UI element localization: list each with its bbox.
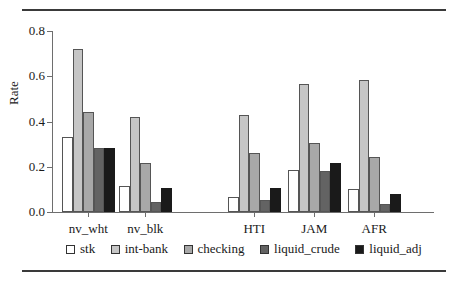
legend-label: liquid_adj — [369, 241, 422, 257]
legend-label: stk — [80, 241, 95, 257]
bar-AFR-liquid_crude — [380, 204, 391, 212]
bar-nv_blk-liquid_crude — [151, 202, 162, 212]
legend-swatch-icon-stk — [66, 245, 75, 254]
legend-item-stk[interactable]: stk — [66, 241, 95, 257]
bar-nv_wht-liquid_crude — [94, 148, 105, 212]
bar-nv_blk-checking — [140, 163, 151, 212]
y-tick-label: 0.6 — [29, 67, 45, 84]
figure: Rate 0.00.20.40.60.8 nv_whtnv_blkHTIJAMA… — [0, 0, 468, 281]
legend-item-int-bank[interactable]: int-bank — [111, 241, 168, 257]
bar-nv_blk-liquid_adj — [161, 188, 172, 212]
chart-legend: stkint-bankcheckingliquid_crudeliquid_ad… — [52, 240, 434, 258]
bar-nv_wht-stk — [62, 137, 73, 212]
x-tick-mark — [314, 212, 315, 217]
y-tick-mark — [47, 167, 52, 168]
bar-AFR-int-bank — [359, 80, 370, 212]
bar-JAM-int-bank — [299, 84, 310, 212]
bar-nv_blk-int-bank — [130, 117, 141, 212]
x-axis-line — [52, 212, 434, 213]
y-tick-label: 0.8 — [29, 22, 45, 39]
bar-JAM-liquid_crude — [320, 171, 331, 212]
y-tick-mark — [47, 31, 52, 32]
y-tick-label: 0.4 — [29, 113, 45, 130]
legend-swatch-icon-int-bank — [111, 245, 120, 254]
bar-nv_wht-liquid_adj — [104, 148, 115, 212]
x-tick-mark — [254, 212, 255, 217]
x-tick-mark — [374, 212, 375, 217]
bar-HTI-liquid_crude — [260, 200, 271, 212]
y-tick-mark — [47, 76, 52, 77]
legend-swatch-icon-liquid_adj — [355, 245, 364, 254]
bar-nv_wht-int-bank — [73, 49, 84, 212]
x-tick-label-nv_wht: nv_wht — [69, 221, 108, 237]
bar-nv_wht-checking — [83, 112, 94, 212]
legend-label: int-bank — [125, 241, 168, 257]
legend-item-checking[interactable]: checking — [184, 241, 245, 257]
bar-nv_blk-stk — [119, 186, 130, 212]
bar-HTI-int-bank — [239, 115, 250, 212]
bar-JAM-stk — [288, 170, 299, 212]
x-tick-label-AFR: AFR — [362, 221, 387, 237]
legend-swatch-icon-liquid_crude — [260, 245, 269, 254]
plot-area: 0.00.20.40.60.8 nv_whtnv_blkHTIJAMAFR — [52, 31, 434, 212]
legend-label: liquid_crude — [274, 241, 340, 257]
x-tick-label-JAM: JAM — [301, 221, 327, 237]
y-axis-label: Rate — [6, 81, 21, 105]
bar-AFR-stk — [348, 189, 359, 212]
bar-JAM-checking — [309, 143, 320, 212]
bar-JAM-liquid_adj — [330, 163, 341, 212]
x-tick-label-nv_blk: nv_blk — [127, 221, 163, 237]
y-tick-mark — [47, 122, 52, 123]
y-tick-mark — [47, 212, 52, 213]
bar-HTI-stk — [228, 197, 239, 212]
y-tick-label: 0.0 — [29, 203, 45, 220]
bar-HTI-checking — [249, 153, 260, 212]
legend-item-liquid_crude[interactable]: liquid_crude — [260, 241, 340, 257]
bar-AFR-checking — [369, 157, 380, 212]
legend-swatch-icon-checking — [184, 245, 193, 254]
legend-label: checking — [198, 241, 245, 257]
y-tick-label: 0.2 — [29, 158, 45, 175]
y-axis-line — [52, 31, 53, 212]
x-tick-label-HTI: HTI — [243, 221, 265, 237]
bar-HTI-liquid_adj — [270, 188, 281, 212]
legend-item-liquid_adj[interactable]: liquid_adj — [355, 241, 422, 257]
bar-AFR-liquid_adj — [390, 194, 401, 212]
x-tick-mark — [145, 212, 146, 217]
x-tick-mark — [88, 212, 89, 217]
figure-bottom-rule — [22, 270, 446, 272]
figure-top-rule — [22, 9, 446, 11]
